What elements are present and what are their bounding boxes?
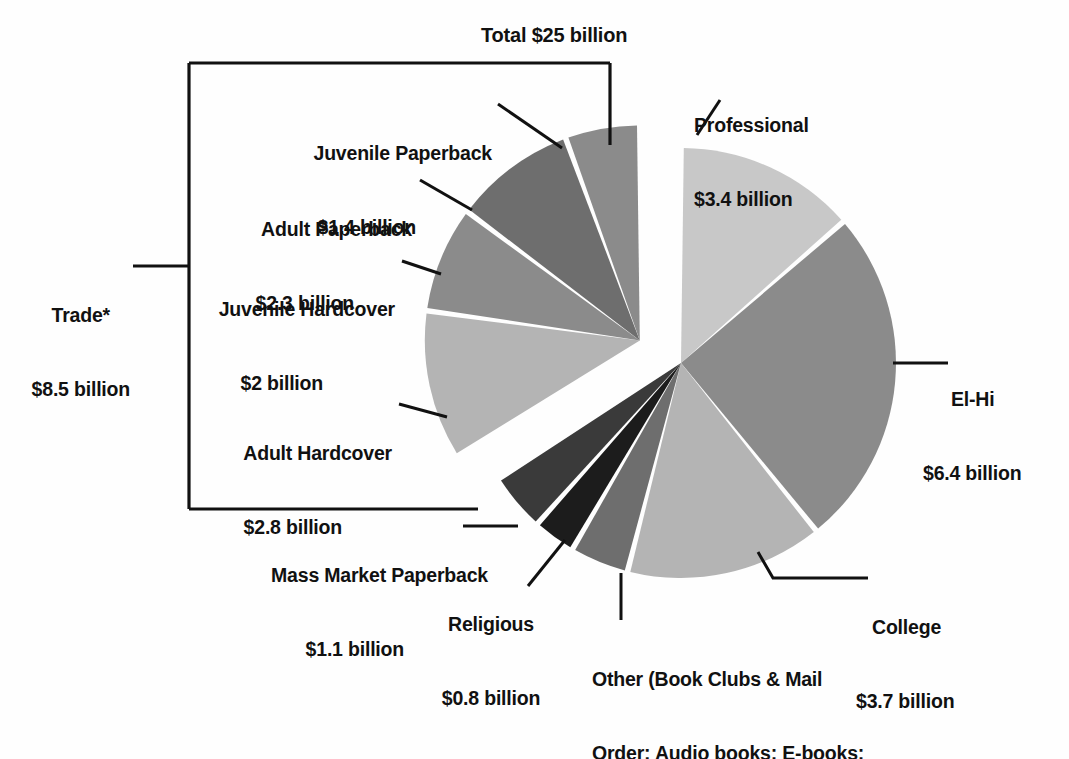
chart-title: Total $25 billion (481, 24, 627, 47)
label-professional-name: Professional (694, 113, 809, 138)
label-mass-market-value: $1.1 billion (178, 637, 508, 662)
label-elhi-name: El-Hi (951, 387, 1021, 412)
label-college-value: $3.7 billion (856, 689, 954, 714)
label-juvenile-paperback-name: Juvenile Paperback (180, 141, 492, 166)
label-other: Other (Book Clubs & Mail Order; Audio bo… (592, 618, 864, 759)
label-juvenile-paperback: Juvenile Paperback $1.4 billion (180, 92, 492, 289)
label-elhi: El-Hi $6.4 billion (923, 338, 1021, 535)
leader-juvenile-paperback (498, 104, 562, 148)
label-professional: Professional $3.4 billion (694, 64, 809, 261)
label-college-name: College (872, 615, 954, 640)
chart-canvas: Total $25 billion Professional $3.4 bill… (0, 0, 1069, 759)
label-juvenile-hardcover-value: $2 billion (110, 371, 395, 396)
label-other-line1: Other (Book Clubs & Mail (592, 667, 864, 692)
label-elhi-value: $6.4 billion (923, 461, 1021, 486)
label-adult-hardcover-name: Adult Hardcover (110, 441, 392, 466)
label-professional-value: $3.4 billion (694, 187, 809, 212)
label-adult-hardcover-value: $2.8 billion (110, 515, 392, 540)
label-other-line2: Order; Audio books; E-books; (592, 741, 864, 759)
label-juvenile-paperback-value: $1.4 billion (180, 215, 492, 240)
label-adult-paperback-value: $2.3 billion (110, 291, 412, 316)
